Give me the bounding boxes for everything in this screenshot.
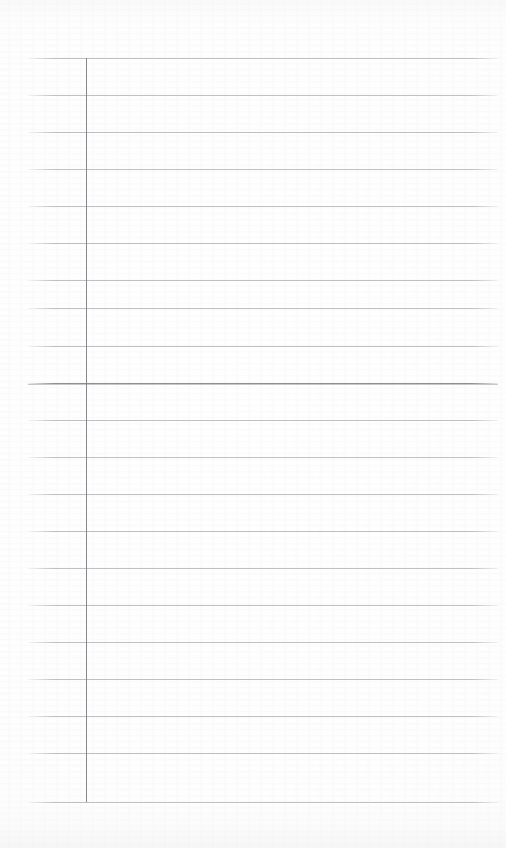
notebook-page	[0, 0, 506, 848]
rule-line	[28, 568, 498, 569]
rule-line	[28, 169, 498, 170]
vertical-margin-rule	[86, 58, 87, 802]
rule-line	[28, 308, 498, 309]
rule-line	[28, 280, 498, 281]
rule-line	[28, 58, 498, 59]
rule-line	[28, 383, 498, 384]
rule-line	[28, 716, 498, 717]
rule-line	[28, 346, 498, 347]
rule-line	[28, 531, 498, 532]
rule-line	[28, 243, 498, 244]
rule-line	[28, 457, 498, 458]
rule-line	[28, 132, 498, 133]
rule-line	[28, 494, 498, 495]
rule-line	[28, 679, 498, 680]
rule-line	[28, 642, 498, 643]
rule-line	[28, 753, 498, 754]
rule-line	[28, 95, 498, 96]
rule-line	[28, 802, 498, 803]
rule-line	[28, 206, 498, 207]
rule-line	[28, 420, 498, 421]
rule-line	[28, 605, 498, 606]
